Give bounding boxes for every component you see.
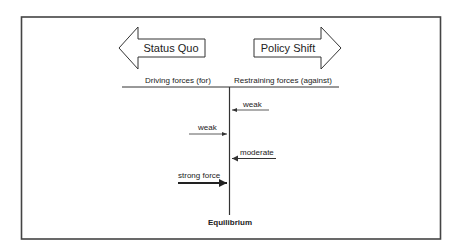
equilibrium-label: Equilibrium	[208, 218, 252, 227]
force-field-diagram: Status Quo Policy Shift Driving forces (…	[0, 0, 460, 249]
policy-shift-label: Policy Shift	[261, 42, 315, 54]
status-quo-label: Status Quo	[143, 42, 198, 54]
diagram-frame	[22, 17, 441, 239]
force-label: weak	[242, 100, 263, 109]
force-label: weak	[197, 123, 218, 132]
force-label: moderate	[240, 148, 274, 157]
force-label: strong force	[178, 171, 221, 180]
driving-forces-header: Driving forces (for)	[145, 76, 211, 85]
restraining-forces-header: Restraining forces (against)	[234, 76, 332, 85]
